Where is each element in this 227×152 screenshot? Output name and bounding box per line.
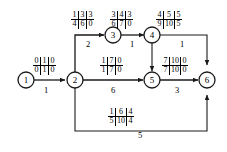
label-1-2-b2: 0 [49,66,57,75]
label-3-4-b2: 0 [126,20,134,29]
label-edge-2-5: 1 7 0 1 7 0 [100,57,123,75]
label-4-6-b0: 9 [156,20,164,29]
label-edge-5-6: 7 10 0 7 10 0 [162,57,188,75]
node-6-label: 6 [205,75,210,85]
node-3[interactable]: 3 [105,27,121,43]
weight-edge-2-5: 6 [111,86,115,95]
label-2-5-b1: 7 [108,66,116,75]
node-4[interactable]: 4 [144,27,160,43]
node-3-label: 3 [111,30,116,40]
node-6[interactable]: 6 [199,72,215,88]
weight-edge-4-6: 1 [180,40,184,49]
node-1[interactable]: 1 [18,72,34,88]
label-4-6-b1: 10 [164,20,175,29]
network-diagram: 1 2 3 4 5 6 0 1 0 [0,0,227,152]
label-4-6-b2: 5 [175,20,183,29]
label-2-5-b0: 1 [100,66,108,75]
label-1-2-b0: 0 [33,66,41,75]
label-2-5-b2: 0 [116,66,124,75]
label-edge-4-6: 4 5 5 9 10 5 [156,11,182,29]
node-4-label: 4 [150,30,155,40]
node-2-label: 2 [73,75,78,85]
weight-edge-3-4: 1 [130,40,134,49]
label-1-2-b1: 1 [41,66,49,75]
label-2-3-b2: 0 [87,20,95,29]
node-5[interactable]: 5 [144,72,160,88]
label-2-6-b1: 10 [116,117,127,126]
node-5-label: 5 [150,75,155,85]
label-edge-2-6: 1 6 4 5 10 4 [108,108,134,126]
label-5-6-b1: 10 [170,66,181,75]
label-2-6-b2: 4 [127,117,135,126]
node-2[interactable]: 2 [67,72,83,88]
label-edge-2-3: 1 3 3 4 6 0 [71,11,94,29]
weight-edge-5-6: 3 [175,86,179,95]
label-edge-3-4: 3 4 3 6 7 0 [110,11,133,29]
weight-edge-2-3: 2 [86,40,90,49]
label-2-3-b1: 6 [79,20,87,29]
label-3-4-b1: 7 [118,20,126,29]
weight-edge-1-2: 1 [44,86,48,95]
weight-edge-2-6: 5 [138,131,142,140]
label-5-6-b0: 7 [162,66,170,75]
label-2-3-b0: 4 [71,20,79,29]
label-2-6-b0: 5 [108,117,116,126]
edge-2-6 [75,88,207,131]
label-5-6-b2: 0 [181,66,189,75]
label-3-4-b0: 6 [110,20,118,29]
label-edge-1-2: 0 1 0 0 1 0 [33,57,56,75]
node-1-label: 1 [24,75,29,85]
